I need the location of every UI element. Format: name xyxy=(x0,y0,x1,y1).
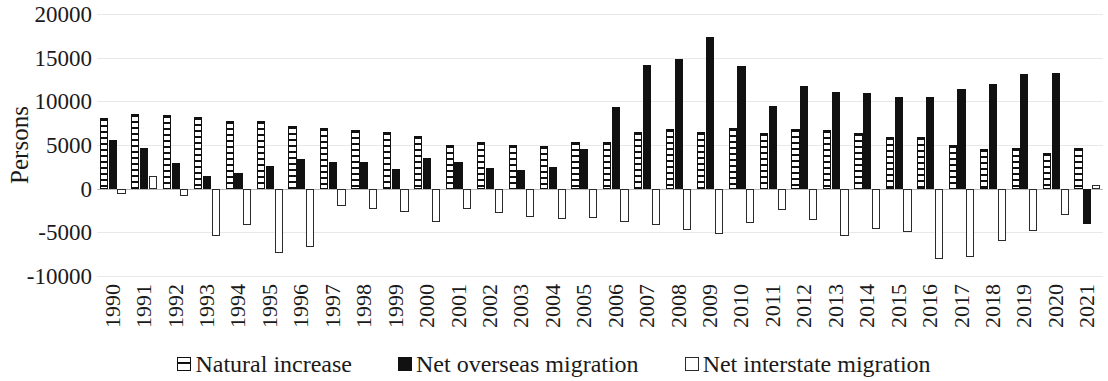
bar-overseas-2003 xyxy=(517,170,525,188)
bar-overseas-2018 xyxy=(989,84,997,189)
bar-interstate-2019 xyxy=(1029,189,1037,231)
bar-overseas-2005 xyxy=(580,149,588,188)
x-axis-tick: 2013 xyxy=(820,282,851,344)
x-axis-tick: 2012 xyxy=(789,282,820,344)
x-axis-tick-label: 2002 xyxy=(479,284,501,328)
bar-interstate-2018 xyxy=(998,189,1006,241)
bar-natural-2019 xyxy=(1012,148,1020,188)
x-axis-tick-label: 1998 xyxy=(353,284,375,328)
bar-interstate-2000 xyxy=(432,189,440,222)
y-axis-tick-label: 10000 xyxy=(35,90,93,113)
bar-natural-2002 xyxy=(477,142,485,189)
year-group xyxy=(349,14,380,276)
x-axis-tick: 1995 xyxy=(254,282,285,344)
x-axis-tick-labels: 1990199119921993199419951996199719981999… xyxy=(97,282,1103,344)
x-axis-tick-label: 2015 xyxy=(888,284,910,328)
bar-natural-2004 xyxy=(540,146,548,189)
bar-interstate-2015 xyxy=(903,189,911,233)
bar-overseas-2002 xyxy=(486,168,494,189)
bar-interstate-1995 xyxy=(275,189,283,254)
x-axis-tick: 2017 xyxy=(946,282,977,344)
x-axis-tick-label: 1997 xyxy=(322,284,344,328)
x-axis-tick: 1994 xyxy=(223,282,254,344)
bar-overseas-2021 xyxy=(1083,189,1091,224)
bar-natural-2016 xyxy=(917,137,925,189)
bar-natural-1993 xyxy=(194,117,202,189)
y-axis-tick-label: -10000 xyxy=(27,265,92,288)
hatched-square-icon xyxy=(177,357,191,371)
year-group xyxy=(411,14,442,276)
bar-overseas-2015 xyxy=(895,97,903,189)
legend-item-interstate[interactable]: Net interstate migration xyxy=(685,351,931,378)
year-group xyxy=(1040,14,1071,276)
bar-overseas-2006 xyxy=(612,107,620,189)
x-axis-tick-label: 2000 xyxy=(416,284,438,328)
year-group xyxy=(600,14,631,276)
legend-item-label: Net overseas migration xyxy=(416,351,639,378)
x-axis-tick-label: 1990 xyxy=(102,284,124,328)
bar-natural-2012 xyxy=(791,129,799,188)
legend-item-overseas[interactable]: Net overseas migration xyxy=(398,351,639,378)
bar-overseas-2014 xyxy=(863,93,871,189)
y-axis-tick-label: 15000 xyxy=(35,46,93,69)
year-group xyxy=(254,14,285,276)
x-axis-tick: 1998 xyxy=(349,282,380,344)
bar-overseas-1990 xyxy=(109,140,117,189)
bar-natural-2018 xyxy=(980,149,988,188)
x-axis-tick-label: 2010 xyxy=(730,284,752,328)
bar-natural-2017 xyxy=(949,145,957,189)
legend-item-natural[interactable]: Natural increase xyxy=(177,351,352,378)
bar-overseas-1997 xyxy=(329,162,337,188)
bar-natural-1997 xyxy=(320,128,328,188)
bar-interstate-2016 xyxy=(935,189,943,260)
x-axis-tick: 2000 xyxy=(411,282,442,344)
bar-overseas-2001 xyxy=(454,162,462,188)
bar-interstate-1996 xyxy=(306,189,314,248)
bar-overseas-2007 xyxy=(643,65,651,189)
bar-overseas-1996 xyxy=(297,159,305,189)
bar-overseas-2012 xyxy=(800,86,808,189)
year-group xyxy=(191,14,222,276)
bar-natural-2010 xyxy=(729,128,737,188)
x-axis-tick: 1993 xyxy=(191,282,222,344)
x-axis-tick-label: 1994 xyxy=(227,284,249,328)
x-axis-tick-label: 2004 xyxy=(542,284,564,328)
bar-natural-2014 xyxy=(854,133,862,189)
x-axis-tick-label: 2009 xyxy=(699,284,721,328)
bar-natural-1999 xyxy=(383,132,391,189)
x-axis-tick-label: 2011 xyxy=(762,284,784,327)
population-components-bar-chart: Persons 20000150001000050000-5000-10000 … xyxy=(0,0,1108,381)
year-group xyxy=(757,14,788,276)
bar-overseas-1991 xyxy=(140,148,148,188)
bar-natural-1995 xyxy=(257,121,265,189)
x-axis-tick-label: 2008 xyxy=(668,284,690,328)
bar-natural-2008 xyxy=(666,129,674,188)
bar-overseas-2019 xyxy=(1020,74,1028,188)
bar-natural-2020 xyxy=(1043,153,1051,189)
x-axis-tick-label: 1992 xyxy=(165,284,187,328)
bar-interstate-2014 xyxy=(872,189,880,229)
year-group xyxy=(474,14,505,276)
bar-interstate-2005 xyxy=(589,189,597,219)
plot-area xyxy=(97,14,1103,276)
year-group xyxy=(726,14,757,276)
y-axis-tick-label: -5000 xyxy=(38,221,92,244)
bar-natural-1996 xyxy=(288,126,296,189)
bar-interstate-2021 xyxy=(1092,185,1100,188)
legend-item-label: Net interstate migration xyxy=(703,351,931,378)
x-axis-tick: 2001 xyxy=(443,282,474,344)
bar-interstate-1993 xyxy=(212,189,220,236)
bar-overseas-2020 xyxy=(1052,73,1060,188)
x-axis-tick: 2020 xyxy=(1040,282,1071,344)
year-group xyxy=(852,14,883,276)
x-axis-tick: 1997 xyxy=(317,282,348,344)
x-axis-tick-label: 2007 xyxy=(636,284,658,328)
bar-interstate-2013 xyxy=(840,189,848,236)
bar-interstate-2007 xyxy=(652,189,660,226)
x-axis-tick: 2014 xyxy=(852,282,883,344)
bar-natural-2001 xyxy=(446,145,454,189)
bar-natural-2013 xyxy=(823,130,831,189)
bar-interstate-2003 xyxy=(526,189,534,217)
bar-overseas-2016 xyxy=(926,97,934,189)
x-axis-tick: 2011 xyxy=(757,282,788,344)
